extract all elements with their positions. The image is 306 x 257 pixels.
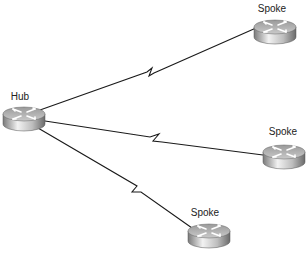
hub-label: Hub (11, 92, 29, 102)
serial-link-hub-spoke1 (40, 28, 256, 110)
links (38, 28, 263, 228)
spoke1-router-icon (254, 20, 296, 44)
network-diagram (0, 0, 306, 257)
spoke-label-middle: Spoke (269, 127, 297, 137)
spoke2-router-icon (263, 145, 305, 169)
spoke-label-bottom: Spoke (191, 208, 219, 218)
serial-link-hub-spoke2 (45, 121, 263, 155)
spoke3-router-icon (188, 224, 230, 248)
hub-router-icon (3, 107, 45, 131)
spoke-label-top: Spoke (258, 4, 286, 14)
